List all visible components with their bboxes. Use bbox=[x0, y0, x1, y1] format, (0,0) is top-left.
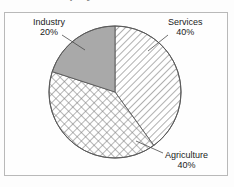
pie-label-services: Services 40% bbox=[168, 17, 203, 37]
pie-label-industry-percent: 20% bbox=[33, 27, 65, 37]
cropped-title-strip: Employment bbox=[0, 0, 234, 11]
pie-label-agriculture-name: Agriculture bbox=[165, 150, 208, 160]
chart-frame: Industry 20% Services 40% Agriculture 40… bbox=[4, 12, 228, 176]
pie-label-agriculture: Agriculture 40% bbox=[165, 150, 208, 170]
pie-label-services-percent: 40% bbox=[168, 27, 203, 37]
pie-label-services-name: Services bbox=[168, 17, 203, 27]
pie-label-agriculture-percent: 40% bbox=[165, 160, 208, 170]
pie-label-industry-name: Industry bbox=[33, 17, 65, 27]
chart-title: Employment bbox=[52, 0, 120, 1]
pie-label-industry: Industry 20% bbox=[33, 17, 65, 37]
